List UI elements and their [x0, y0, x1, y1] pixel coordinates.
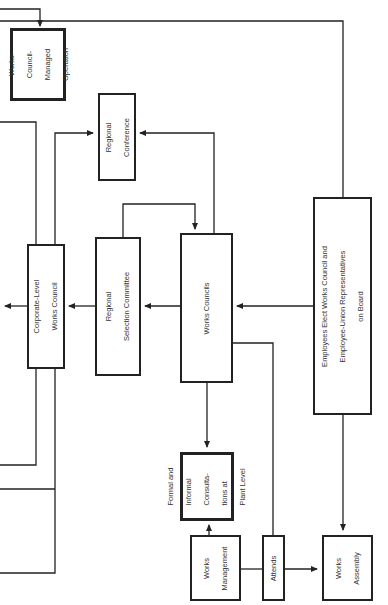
- corporate-level-works-council-label: Corporate-Level Works Council: [24, 280, 69, 334]
- regional-conference-label: Regional Conference: [95, 118, 140, 157]
- works-council-managed-operation-label: Works- Council- Managed Operation: [0, 48, 79, 81]
- employees-elect-label: Employees Elect Works Council and Employ…: [311, 246, 374, 367]
- works-council-managed-operation-box: Works- Council- Managed Operation: [10, 28, 66, 101]
- employees-elect-box: Employees Elect Works Council and Employ…: [313, 197, 372, 415]
- works-management-box: Works Management: [190, 535, 241, 601]
- corporate-level-works-council-box: Corporate-Level Works Council: [27, 244, 65, 369]
- attends-box: Attends: [262, 535, 285, 601]
- formal-informal-consultations-box: Formal and Informal Consulta- tions at P…: [180, 452, 234, 521]
- works-management-label: Works Management: [193, 546, 238, 590]
- regional-selection-committee-label: Regional Selection Committee: [96, 272, 141, 341]
- regional-conference-box: Regional Conference: [98, 93, 136, 181]
- formal-informal-consultations-label: Formal and Informal Consulta- tions at P…: [158, 468, 257, 506]
- works-assembly-label: Works Assembly: [325, 552, 370, 585]
- works-councils-box: Works Councils: [180, 233, 233, 383]
- regional-selection-committee-box: Regional Selection Committee: [95, 237, 141, 376]
- works-assembly-box: Works Assembly: [322, 535, 373, 601]
- works-councils-label: Works Councils: [193, 282, 220, 334]
- attends-label: Attends: [260, 555, 287, 580]
